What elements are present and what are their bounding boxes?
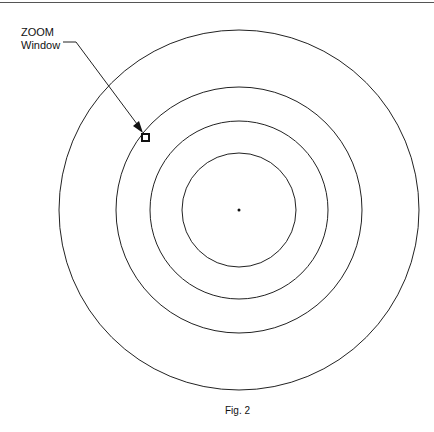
callout-line-1: ZOOM [21, 26, 60, 39]
zoom-window-callout: ZOOM Window [21, 26, 60, 52]
callout-line-2: Window [21, 39, 60, 52]
zoom-window-marker [142, 134, 149, 141]
figure-caption: Fig. 2 [225, 404, 250, 417]
arrowhead-icon [133, 121, 143, 133]
center-point [238, 209, 241, 212]
concentric-circles-diagram [0, 0, 434, 432]
callout-leader-line [63, 42, 140, 128]
